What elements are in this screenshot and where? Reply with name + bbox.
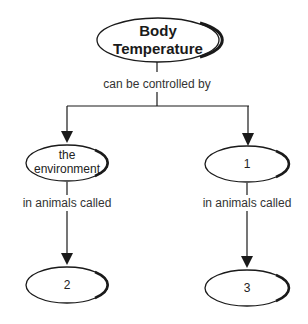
node-body-temperature: Body Temperature: [97, 18, 222, 62]
edge-left-in-animals-called: in animals called: [23, 182, 112, 265]
node-blank-2-label: 2: [64, 278, 71, 292]
node-blank-3: 3: [205, 270, 289, 306]
node-blank-1-label: 1: [244, 157, 251, 171]
arrow-down-icon: [241, 256, 253, 268]
arrow-down-icon: [242, 133, 254, 146]
edge-label-can-be-controlled-by: can be controlled by: [103, 77, 210, 91]
node-body-temperature-line1: Body: [139, 22, 177, 39]
edge-right-in-animals-called: in animals called: [203, 183, 292, 268]
node-the-environment-line1: the: [59, 148, 76, 162]
node-the-environment: the environment: [26, 145, 108, 181]
edge-label-right-in-animals-called: in animals called: [203, 196, 292, 210]
edge-label-left-in-animals-called: in animals called: [23, 196, 112, 210]
concept-map: Body Temperature can be controlled by th…: [0, 0, 308, 324]
node-blank-1: 1: [205, 146, 289, 182]
arrow-down-icon: [61, 131, 73, 143]
node-blank-3-label: 3: [244, 281, 251, 295]
node-body-temperature-line2: Temperature: [113, 40, 203, 57]
edge-can-be-controlled-by: can be controlled by: [61, 62, 254, 146]
node-the-environment-line2: environment: [34, 162, 101, 176]
node-blank-2: 2: [26, 267, 108, 303]
arrow-down-icon: [61, 253, 73, 265]
